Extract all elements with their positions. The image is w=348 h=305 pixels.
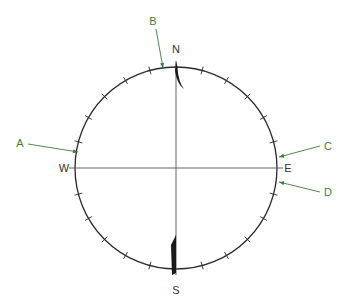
cardinal-east: E [284,162,291,174]
callout-arrow-line [279,146,320,157]
compass-diagram: NSWE ABCD [0,0,348,305]
callout-label: A [16,137,24,149]
callout-a: A [16,137,78,153]
callout-label: B [149,15,156,27]
arrowhead-icon [279,154,284,158]
callout-label: D [324,186,332,198]
callout-d: D [279,181,332,198]
cardinal-north: N [172,43,180,55]
callout-b: B [149,15,164,68]
callout-arrow-line [156,29,163,68]
callout-c: C [279,140,332,158]
cardinal-south: S [172,284,179,296]
callout-arrow-line [28,144,78,152]
callout-label: C [324,140,332,152]
callout-arrow-line [279,182,320,192]
compass-svg: NSWE ABCD [0,0,348,305]
cardinal-west: W [59,162,70,174]
